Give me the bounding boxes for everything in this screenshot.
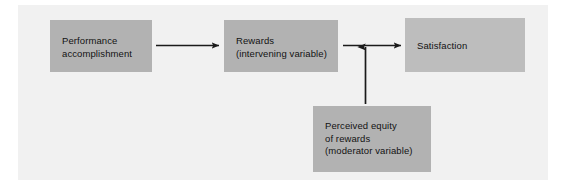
node-performance-accomplishment[interactable]: Performance accomplishment bbox=[50, 20, 152, 72]
node-rewards-label: Rewards (intervening variable) bbox=[236, 35, 327, 60]
node-perceived-equity-of-rewards-label: Perceived equity of rewards (moderator v… bbox=[325, 120, 413, 158]
node-performance-accomplishment-label: Performance accomplishment bbox=[62, 35, 132, 60]
node-rewards[interactable]: Rewards (intervening variable) bbox=[224, 20, 338, 72]
diagram-canvas: Performance accomplishment Rewards (inte… bbox=[0, 0, 565, 194]
node-satisfaction[interactable]: Satisfaction bbox=[405, 18, 525, 72]
node-perceived-equity-of-rewards[interactable]: Perceived equity of rewards (moderator v… bbox=[313, 106, 431, 172]
node-satisfaction-label: Satisfaction bbox=[417, 40, 467, 53]
